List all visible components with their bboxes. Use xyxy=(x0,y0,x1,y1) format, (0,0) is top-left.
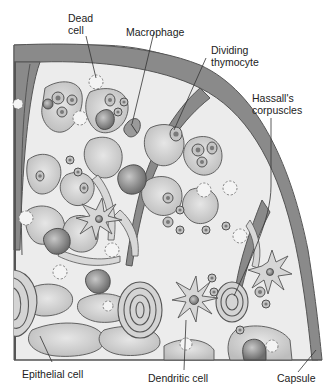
label-macrophage: Macrophage xyxy=(126,26,184,38)
thymus-diagram xyxy=(0,0,328,390)
hassalls-corpuscle-1 xyxy=(118,282,162,338)
label-dendritic-cell: Dendritic cell xyxy=(148,372,208,384)
label-hassalls-corpuscles: Hassall's corpuscles xyxy=(252,92,302,116)
label-capsule: Capsule xyxy=(277,372,316,384)
label-dead-cell: Dead cell xyxy=(68,12,93,36)
hassalls-corpuscle-2 xyxy=(216,282,248,322)
label-dividing-thymocyte: Dividing thymocyte xyxy=(211,44,259,68)
label-epithelial-cell: Epithelial cell xyxy=(22,368,83,380)
